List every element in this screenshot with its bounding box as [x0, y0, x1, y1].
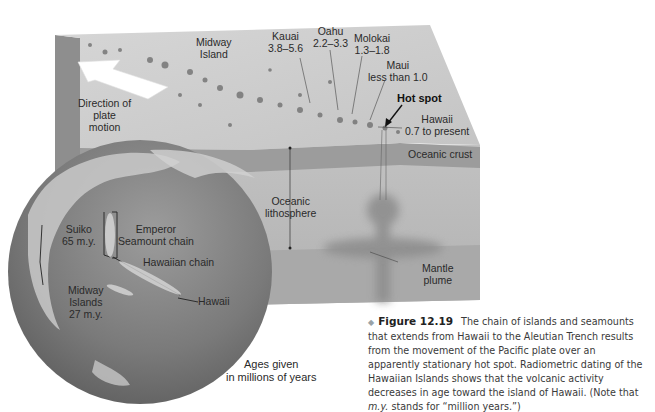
- hot-spot-label: Hot spot: [397, 92, 442, 104]
- label-line: Maui: [368, 59, 428, 71]
- maui-label: Maui less than 1.0: [368, 59, 428, 83]
- caption-text-end: stands for “million years.”): [388, 401, 520, 412]
- label-line: Direction of: [78, 97, 131, 109]
- plate-motion-label: Direction of plate motion: [78, 97, 131, 133]
- oahu-label: Oahu 2.2–3.3: [313, 25, 348, 49]
- label-line: Mantle: [422, 262, 454, 274]
- label-line: Midway: [68, 284, 104, 296]
- mantle-plume-label: Mantle plume: [422, 262, 454, 286]
- label-line: 2.2–3.3: [313, 37, 348, 49]
- label-line: less than 1.0: [368, 71, 428, 83]
- label-line: 27 m.y.: [68, 308, 104, 320]
- oceanic-lithosphere-label: Oceanic lithosphere: [265, 195, 316, 219]
- figure-caption: ◆Figure 12.19The chain of islands and se…: [368, 314, 650, 412]
- suiko-label: Suiko 65 m.y.: [62, 223, 96, 247]
- label-line: plume: [422, 274, 454, 286]
- label-line: motion: [78, 121, 131, 133]
- emperor-seamount-label: Emperor Seamount chain: [118, 223, 194, 247]
- caption-text: The chain of islands and seamounts that …: [368, 316, 643, 398]
- label-line: 3.8–5.6: [268, 42, 303, 54]
- figure-number: Figure 12.19: [378, 315, 453, 327]
- ages-note: Ages given in millions of years: [226, 358, 316, 384]
- label-line: 0.7 to present: [405, 125, 469, 137]
- label-line: lithosphere: [265, 207, 316, 219]
- label-line: Islands: [68, 296, 104, 308]
- kauai-label: Kauai 3.8–5.6: [268, 30, 303, 54]
- label-line: in millions of years: [226, 371, 316, 384]
- midway-island-label: Midway Island: [196, 36, 232, 60]
- label-line: Seamount chain: [118, 235, 194, 247]
- label-line: Island: [196, 48, 232, 60]
- molokai-label: Molokai 1.3–1.8: [354, 32, 390, 56]
- caption-italic: m.y.: [368, 401, 388, 412]
- label-line: 65 m.y.: [62, 235, 96, 247]
- label-line: Suiko: [62, 223, 96, 235]
- label-line: Hawaii: [405, 113, 469, 125]
- label-line: Ages given: [226, 358, 316, 371]
- label-line: Oahu: [313, 25, 348, 37]
- label-line: Emperor: [118, 223, 194, 235]
- label-line: 1.3–1.8: [354, 44, 390, 56]
- label-line: Midway: [196, 36, 232, 48]
- label-line: Kauai: [268, 30, 303, 42]
- oceanic-crust-label: Oceanic crust: [408, 148, 472, 160]
- label-line: Oceanic: [265, 195, 316, 207]
- hawaiian-chain-label: Hawaiian chain: [143, 256, 214, 268]
- label-line: Molokai: [354, 32, 390, 44]
- label-line: plate: [78, 109, 131, 121]
- hawaii-block-label: Hawaii 0.7 to present: [405, 113, 469, 137]
- diamond-bullet-icon: ◆: [368, 318, 374, 327]
- midway-islands-globe-label: Midway Islands 27 m.y.: [68, 284, 104, 320]
- hawaii-globe-label: Hawaii: [198, 295, 230, 307]
